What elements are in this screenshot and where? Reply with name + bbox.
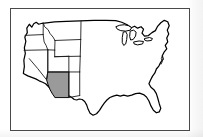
map-frame-border [10, 8, 190, 131]
highlighted-state-arizona [47, 72, 69, 98]
map-figure [0, 0, 203, 137]
us-national-outline [23, 20, 169, 115]
us-map-graphic [11, 9, 189, 130]
lake-erie [134, 41, 144, 45]
lake-ontario [145, 38, 153, 41]
